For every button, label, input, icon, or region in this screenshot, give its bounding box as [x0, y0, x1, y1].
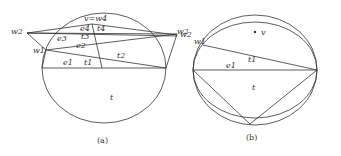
label-w2-left: w2	[11, 27, 23, 36]
label-w1: w1	[33, 46, 45, 55]
label-t1: t1	[84, 58, 92, 67]
figure-b: w2 w1 v e1 t1 t (b)	[177, 15, 317, 142]
point-v	[254, 31, 256, 33]
label-t: t	[110, 93, 114, 102]
figure-a: v=w4 w2 w2 w1 e4 t4 e3 t3 e2 t2 e1 t1 t …	[11, 13, 192, 145]
diagram-canvas: v=w4 w2 w2 w1 e4 t4 e3 t3 e2 t2 e1 t1 t …	[0, 0, 341, 156]
label-e2: e2	[76, 41, 86, 50]
edge-left-bottom-b	[193, 70, 250, 124]
label-t4: t4	[97, 24, 105, 33]
edge-w1-b	[203, 45, 317, 70]
label-e1-b: e1	[226, 61, 236, 70]
label-t-b: t	[252, 83, 256, 92]
label-e3: e3	[57, 34, 67, 43]
label-t2: t2	[117, 51, 125, 60]
label-w2-b: w2	[177, 27, 189, 36]
label-w1-b: w1	[194, 37, 206, 46]
label-t1-b: t1	[248, 55, 256, 64]
label-t3: t3	[81, 32, 89, 41]
label-e1: e1	[63, 58, 73, 67]
caption-a: (a)	[97, 136, 108, 145]
edge-bottom-right-b	[250, 70, 317, 124]
caption-b: (b)	[246, 133, 257, 142]
figure: v=w4 w2 w2 w1 e4 t4 e3 t3 e2 t2 e1 t1 t …	[0, 0, 341, 156]
edge-w2r-right	[166, 34, 177, 68]
label-v-w4: v=w4	[84, 14, 107, 23]
label-v-b: v	[261, 28, 266, 37]
